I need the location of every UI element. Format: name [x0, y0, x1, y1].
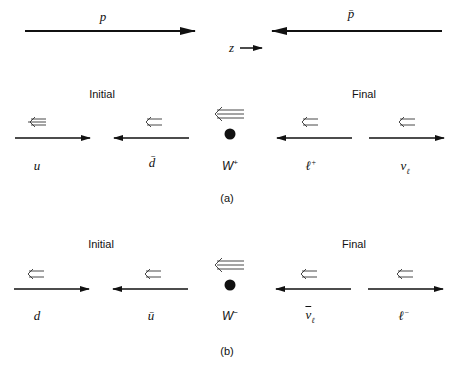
b-w-boson-dot: [225, 280, 236, 291]
b-lepton-label: ℓ−: [399, 310, 410, 322]
proton-label: p: [100, 11, 107, 23]
b-lepton-charge: −: [404, 308, 409, 317]
a-neutrino-flavor: ℓ: [406, 167, 409, 176]
b-d-quark-label: d: [34, 310, 41, 322]
a-final-title: Final: [352, 88, 376, 100]
a-w-spin-icon: [215, 107, 244, 121]
b-w-minus-label: W−: [222, 310, 238, 322]
b-w-symbol: W: [222, 309, 233, 323]
b-w-charge: −: [233, 308, 238, 317]
b-initial-title: Initial: [88, 238, 114, 250]
b-antineutrino-spin-icon: [301, 269, 317, 279]
b-lepton-spin-icon: [397, 269, 413, 279]
a-w-plus-label: W+: [222, 160, 238, 172]
z-axis-label: z: [229, 42, 234, 54]
a-lepton-spin-icon: [302, 117, 318, 127]
a-dbar-label: d̄: [149, 157, 156, 169]
b-d-spin-icon: [28, 269, 44, 279]
b-caption: (b): [220, 345, 233, 357]
b-w-spin-icon: [215, 258, 244, 272]
a-initial-title: Initial: [89, 88, 115, 100]
a-u-spin-icon: [28, 117, 46, 127]
a-dbar-spin-icon: [146, 117, 162, 127]
a-w-symbol: W: [222, 159, 233, 173]
b-ubar-label: ū: [148, 310, 155, 322]
a-neutrino-label: νℓ: [400, 160, 409, 172]
b-final-title: Final: [342, 238, 366, 250]
antiproton-label: p̄: [348, 8, 355, 20]
b-ubar-spin-icon: [145, 269, 161, 279]
a-w-charge: +: [233, 158, 238, 167]
a-lepton-charge: +: [311, 158, 316, 167]
a-lepton-label: ℓ+: [306, 160, 317, 172]
a-u-quark-label: u: [34, 160, 41, 172]
a-caption: (a): [220, 192, 233, 204]
b-antineutrino-flavor: ℓ: [311, 316, 314, 325]
a-neutrino-spin-icon: [399, 117, 415, 127]
a-w-boson-dot: [225, 129, 236, 140]
b-antineutrino-label: νℓ: [305, 309, 314, 321]
